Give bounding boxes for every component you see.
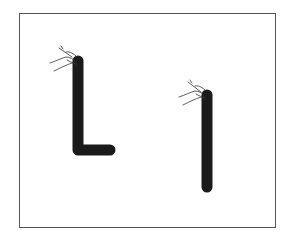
letter-L-stroke — [78, 61, 110, 150]
tracing-canvas — [0, 0, 285, 231]
